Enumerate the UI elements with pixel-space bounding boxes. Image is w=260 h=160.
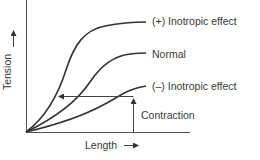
curve-normal xyxy=(26,53,146,132)
y-axis-label: Tension xyxy=(1,54,13,90)
curve-positive-inotropic xyxy=(26,22,146,132)
x-axis-label: Length xyxy=(85,139,117,151)
length-tension-diagram: (+) Inotropic effect Normal (–) Inotropi… xyxy=(0,0,260,160)
label-contraction: Contraction xyxy=(141,109,195,121)
curve-negative-inotropic xyxy=(26,86,146,132)
label-normal: Normal xyxy=(152,48,186,60)
label-negative-inotropic: (–) Inotropic effect xyxy=(152,80,236,92)
label-positive-inotropic: (+) Inotropic effect xyxy=(152,15,237,27)
